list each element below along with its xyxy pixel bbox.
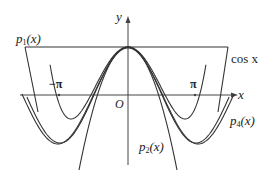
- label-p2: p2(x): [139, 140, 164, 155]
- taylor-approximation-diagram: [0, 0, 271, 170]
- origin-label: O: [115, 98, 124, 110]
- y-axis-label: y: [116, 10, 122, 23]
- tick-neg-pi: [58, 94, 60, 96]
- y-axis-arrow-icon: [126, 16, 131, 23]
- x-axis-label: x: [238, 88, 244, 101]
- tick-label-pi: π: [190, 78, 197, 90]
- label-p4: p4(x): [230, 114, 255, 129]
- x-axis-arrow-icon: [231, 93, 238, 98]
- tick-label-neg-pi: −π: [49, 78, 62, 90]
- label-p1: p1(x): [16, 32, 41, 47]
- tick-pi: [194, 94, 196, 96]
- curve-cos-left-rise: [25, 47, 38, 112]
- label-cos: cos x: [231, 52, 258, 65]
